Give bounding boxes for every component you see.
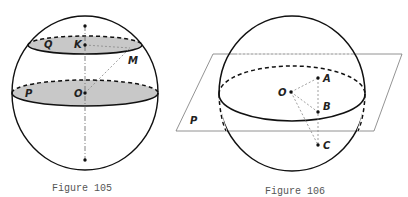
segment-OC [291,92,318,145]
point-O [83,91,86,94]
point-K [83,43,86,46]
label-C: C [323,140,331,151]
label-O: O [278,87,287,98]
sphere-lower-outline [219,94,365,171]
geometry-figures: Q K M P O Figure 105 [0,0,408,197]
point-A [316,76,319,79]
label-A: A [322,73,331,84]
figure-106: O A B C P Figure 106 [176,16,402,197]
label-O: O [74,88,83,99]
label-M: M [128,55,138,66]
point-C [316,143,319,146]
pole-top-point [83,24,86,27]
segment-OB [291,92,318,112]
point-B [316,110,319,113]
segment-OA [291,78,318,92]
figure-caption: Figure 105 [52,183,112,194]
figure-105: Q K M P O Figure 105 [12,16,158,194]
label-P: P [190,115,198,126]
label-Q: Q [44,39,53,50]
plane-right-edge [374,54,402,131]
point-O [289,90,292,93]
label-B: B [323,101,331,112]
label-K: K [74,39,83,50]
pole-bottom-point [83,158,86,161]
label-P: P [25,88,33,99]
figure-caption: Figure 106 [265,186,325,197]
section-back [219,66,365,94]
sphere-upper-outline [219,16,365,94]
section-front [219,94,365,121]
